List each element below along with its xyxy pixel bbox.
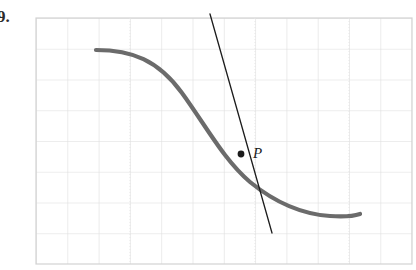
point-p-label: P: [252, 145, 262, 161]
point-p-marker: [238, 151, 245, 158]
figure-container: 9. P: [0, 0, 416, 270]
grid-lines: [36, 18, 412, 264]
graph-figure: P: [0, 0, 416, 270]
